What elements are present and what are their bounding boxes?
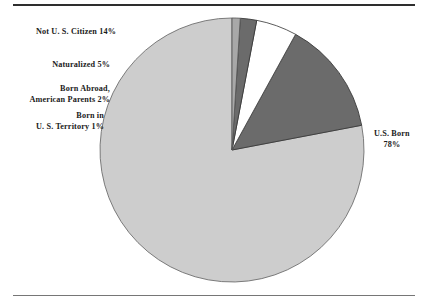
figure-container: Not U. S. Citizen 14% Naturalized 5% Bor… bbox=[0, 0, 430, 301]
slice-label-us-territory-line2: U. S. Territory 1% bbox=[36, 122, 104, 133]
slice-label-not-us-citizen-text: Not U. S. Citizen 14% bbox=[36, 27, 116, 38]
slice-label-born-abroad-line1: Born Abroad, bbox=[30, 84, 110, 95]
slice-label-us-born: U.S. Born 78% bbox=[374, 129, 410, 150]
slice-label-us-born-line2: 78% bbox=[374, 140, 410, 151]
slice-label-born-abroad-line2: American Parents 2% bbox=[30, 95, 110, 106]
slice-label-born-abroad: Born Abroad, American Parents 2% bbox=[30, 84, 110, 105]
pie-slices-group bbox=[100, 18, 364, 282]
slice-label-us-territory: Born in U. S. Territory 1% bbox=[36, 111, 104, 132]
slice-label-us-born-line1: U.S. Born bbox=[374, 129, 410, 140]
slice-label-naturalized: Naturalized 5% bbox=[52, 60, 110, 71]
slice-label-not-us-citizen: Not U. S. Citizen 14% bbox=[36, 27, 116, 38]
pie-chart bbox=[0, 0, 430, 301]
slice-label-us-territory-line1: Born in bbox=[36, 111, 104, 122]
slice-label-naturalized-text: Naturalized 5% bbox=[52, 60, 110, 71]
